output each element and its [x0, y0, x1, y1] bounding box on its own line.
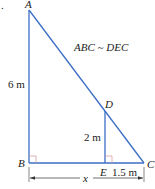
label-b: B: [18, 157, 25, 169]
label-d: D: [104, 98, 113, 110]
label-c: C: [147, 158, 155, 170]
similarity-statement: ABC ~ DEC: [73, 41, 129, 53]
arrow-left-icon: [30, 176, 35, 179]
right-angle-b-icon: [29, 156, 36, 163]
problem-marker: .: [1, 0, 4, 11]
label-e: E: [99, 166, 107, 178]
measure-de: 2 m: [84, 131, 101, 143]
label-a: A: [24, 0, 32, 10]
arrow-right-icon: [138, 176, 143, 179]
measure-ec: 1.5 m: [112, 166, 138, 178]
right-angle-e-icon: [105, 156, 112, 163]
similar-triangles-diagram: . A B C D E ABC ~ DEC 6 m 2 m 1.5 m x: [0, 0, 155, 189]
measure-bc: x: [82, 172, 88, 184]
measure-ab: 6 m: [8, 78, 25, 90]
